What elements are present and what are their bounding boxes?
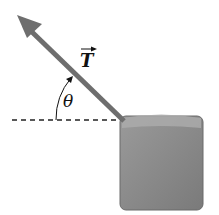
arc-arrowhead-icon [66,76,73,83]
block [120,115,203,211]
tension-diagram [0,0,219,215]
angle-label-theta: θ [63,91,73,111]
vector-label-T: T [80,50,93,71]
